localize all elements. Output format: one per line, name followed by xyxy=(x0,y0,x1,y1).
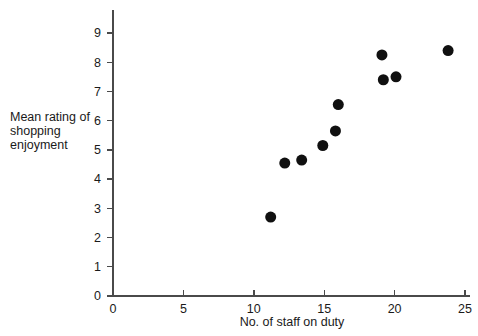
y-axis-tick-label: 2 xyxy=(94,231,101,245)
x-axis-tick-label: 25 xyxy=(458,302,472,316)
y-axis-tick-label: 3 xyxy=(94,202,101,216)
x-axis-tick-label: 15 xyxy=(317,302,331,316)
y-axis-label-line-1: Mean rating of xyxy=(10,110,90,124)
y-axis-tick-label: 4 xyxy=(94,172,101,186)
data-point xyxy=(391,71,402,82)
x-axis-tick-label: 0 xyxy=(110,302,117,316)
scatter-plot-figure: 0123456789 0510152025 No. of staff on du… xyxy=(0,0,478,336)
data-point xyxy=(378,74,389,85)
y-axis-tick-label: 0 xyxy=(94,289,101,303)
data-point xyxy=(443,45,454,56)
data-point xyxy=(333,99,344,110)
y-axis-tick-label: 6 xyxy=(94,114,101,128)
y-axis-label-line-3: enjoyment xyxy=(10,138,68,152)
data-point xyxy=(265,212,276,223)
plot-canvas: 0123456789 0510152025 No. of staff on du… xyxy=(0,0,478,336)
x-axis-label: No. of staff on duty xyxy=(240,315,345,329)
data-point xyxy=(296,155,307,166)
y-axis-label-line-2: shopping xyxy=(10,124,61,138)
data-point xyxy=(376,49,387,60)
data-point xyxy=(279,158,290,169)
y-axis-tick-label: 7 xyxy=(94,85,101,99)
x-axis-tick-label: 10 xyxy=(247,302,261,316)
x-axis-tick-label: 20 xyxy=(388,302,402,316)
y-axis-tick-label: 1 xyxy=(94,260,101,274)
y-axis-tick-group: 0123456789 xyxy=(94,26,113,303)
data-point xyxy=(317,140,328,151)
y-axis-tick-label: 9 xyxy=(94,26,101,40)
data-points-group xyxy=(265,45,453,223)
x-axis-tick-label: 5 xyxy=(180,302,187,316)
x-axis-tick-group: 0510152025 xyxy=(110,290,472,316)
data-point xyxy=(330,125,341,136)
y-axis-tick-label: 8 xyxy=(94,56,101,70)
y-axis-tick-label: 5 xyxy=(94,143,101,157)
